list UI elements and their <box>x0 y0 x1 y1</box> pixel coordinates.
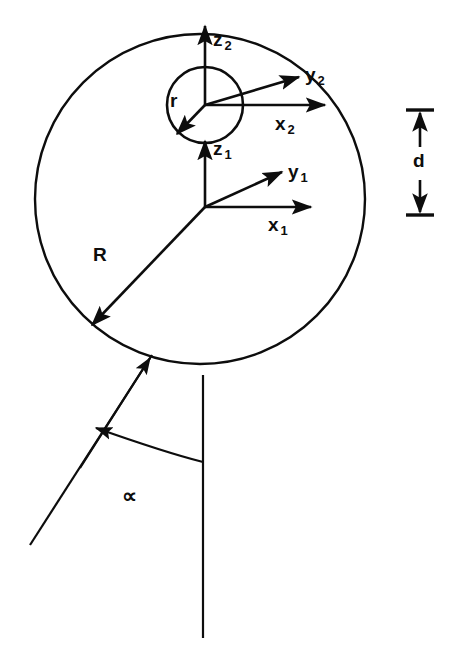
label-x1-sub: 1 <box>281 223 288 238</box>
axis-y1 <box>205 172 282 207</box>
label-alpha-text: ∝ <box>122 484 137 507</box>
label-x2: x2 <box>275 114 293 133</box>
label-r-text: r <box>170 90 177 111</box>
label-x1-base: x <box>268 214 279 235</box>
label-y1-sub: 1 <box>301 170 308 185</box>
radius-R-arrow <box>92 207 205 325</box>
label-z1-base: z <box>213 138 223 159</box>
label-y2-sub: 2 <box>318 73 325 88</box>
label-R-text: R <box>93 244 107 265</box>
diagram-root: z2 y2 x2 r z1 y1 x1 R d ∝ <box>0 0 450 657</box>
label-d: d <box>413 151 425 170</box>
axis-y2 <box>205 77 299 105</box>
label-alpha: ∝ <box>122 485 137 506</box>
label-r: r <box>170 91 177 110</box>
diagram-canvas <box>0 0 450 657</box>
label-z2-sub: 2 <box>225 38 232 53</box>
label-R: R <box>93 245 107 264</box>
label-z2-base: z <box>213 29 223 50</box>
label-z1: z1 <box>213 139 230 158</box>
alpha-angle-arc <box>96 428 203 462</box>
label-y2: y2 <box>305 65 323 84</box>
label-y1: y1 <box>288 162 306 181</box>
label-x1: x1 <box>268 215 286 234</box>
label-z2: z2 <box>213 30 230 49</box>
label-d-text: d <box>413 150 425 171</box>
label-x2-base: x <box>275 113 286 134</box>
label-x2-sub: 2 <box>288 122 295 137</box>
label-z1-sub: 1 <box>225 147 232 162</box>
slanted-line-arrow <box>80 358 150 468</box>
radius-r-arrow <box>177 105 205 134</box>
label-y2-base: y <box>305 64 316 85</box>
label-y1-base: y <box>288 161 299 182</box>
